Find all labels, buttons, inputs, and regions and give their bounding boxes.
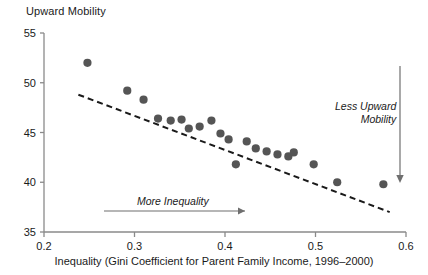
x-axis-label: Inequality (Gini Coefficient for Parent …	[0, 255, 428, 267]
y-axis-ticks: 3540455055	[24, 27, 44, 238]
data-point	[273, 150, 281, 158]
scatter-chart-figure: Upward Mobility 3540455055 0.20.30.40.50…	[0, 0, 428, 275]
data-point	[139, 96, 147, 104]
x-tick-label: 0.6	[398, 240, 413, 252]
y-tick-label: 55	[24, 27, 36, 39]
y-tick-label: 50	[24, 77, 36, 89]
data-point	[232, 160, 240, 168]
data-point	[263, 147, 271, 155]
data-point	[216, 129, 224, 137]
x-tick-label: 0.5	[308, 240, 323, 252]
data-point	[185, 124, 193, 132]
x-tick-label: 0.2	[36, 240, 51, 252]
annotation-less-upward-mobility: Less Upward Mobility	[335, 100, 396, 126]
data-point	[123, 87, 131, 95]
data-point	[379, 180, 387, 188]
y-tick-label: 35	[24, 226, 36, 238]
data-point	[167, 116, 175, 124]
more-inequality-arrow	[104, 208, 245, 215]
data-point	[177, 115, 185, 123]
data-point	[333, 178, 341, 186]
annotation-less-upward-mobility-line2: Mobility	[335, 113, 396, 126]
data-point	[225, 135, 233, 143]
x-axis-ticks: 0.20.30.40.50.6	[36, 232, 413, 252]
x-tick-label: 0.3	[127, 240, 142, 252]
data-point	[196, 122, 204, 130]
annotation-more-inequality: More Inequality	[137, 195, 209, 207]
y-tick-label: 45	[24, 127, 36, 139]
axes-group	[44, 33, 406, 232]
data-point	[310, 160, 318, 168]
data-point	[207, 116, 215, 124]
data-point	[252, 144, 260, 152]
data-point	[290, 148, 298, 156]
data-point	[83, 59, 91, 67]
plot-canvas: 3540455055 0.20.30.40.50.6	[0, 0, 428, 275]
data-point	[243, 137, 251, 145]
data-point	[154, 114, 162, 122]
annotation-less-upward-mobility-line1: Less Upward	[335, 100, 396, 113]
x-tick-label: 0.4	[217, 240, 232, 252]
y-tick-label: 40	[24, 176, 36, 188]
less-upward-mobility-arrow	[396, 66, 403, 183]
